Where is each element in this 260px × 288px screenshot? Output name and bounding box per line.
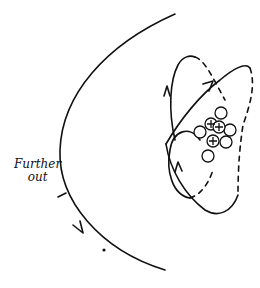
neutron [220,136,232,148]
outer-orbit-arc [60,14,175,270]
outer-orbit-arrow-icon [73,221,83,233]
further-out-label: Further out [14,158,61,184]
inner-orbit-a-arrow-icon [164,86,170,96]
inner-orbit-a-dashed-lower [190,170,213,198]
outer-orbit-tick [58,193,66,197]
neutron [215,107,227,119]
inner-orbit-a-solid [171,56,195,140]
inner-orbit-b-solid [166,66,250,144]
nucleus [194,107,236,162]
neutron [194,126,206,138]
neutron [202,150,214,162]
atom-diagram [0,0,260,288]
neutron [224,124,236,136]
inner-orbit-a-dashed [195,57,225,100]
inner-orbit-lower-arrow-icon [175,162,182,172]
outer-orbit-dot [103,249,105,251]
inner-orbit-b-dashed [238,68,252,195]
further-out-label-line2: out [14,171,61,184]
